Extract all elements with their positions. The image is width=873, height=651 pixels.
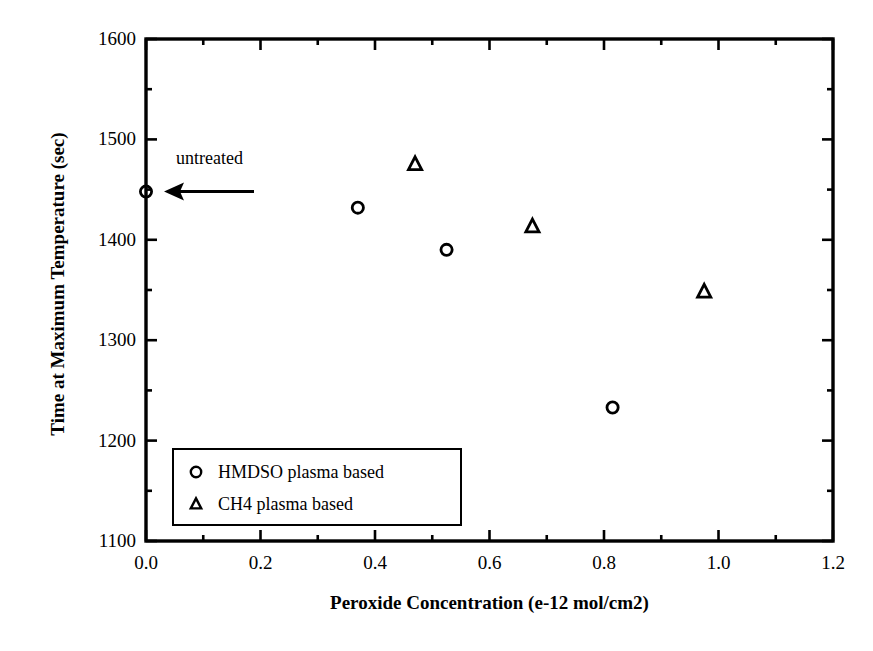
scatter-chart-figure: Time at Maximum Temperature (sec) Peroxi…: [0, 0, 873, 651]
legend-label-hmdso: HMDSO plasma based: [218, 462, 384, 483]
legend-entry-ch4: CH4 plasma based: [174, 488, 460, 520]
data-point-triangle: [408, 157, 421, 170]
data-markers: [140, 157, 710, 413]
plot-area: [0, 0, 873, 651]
legend: HMDSO plasma based CH4 plasma based: [172, 448, 462, 526]
data-point-triangle: [698, 284, 711, 297]
circle-marker-icon: [174, 463, 218, 481]
legend-entry-hmdso: HMDSO plasma based: [174, 456, 460, 488]
untreated-annotation-arrow: [164, 183, 254, 201]
data-point-triangle: [526, 219, 539, 232]
data-point-circle: [441, 244, 452, 255]
data-point-circle: [352, 202, 363, 213]
untreated-annotation-label: untreated: [176, 148, 243, 169]
triangle-marker-icon: [174, 495, 218, 513]
legend-label-ch4: CH4 plasma based: [218, 494, 353, 515]
data-point-circle: [607, 402, 618, 413]
